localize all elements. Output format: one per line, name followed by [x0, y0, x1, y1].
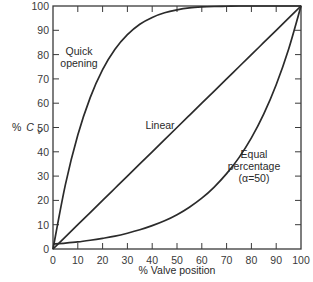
y-tick-label: 30 [37, 170, 49, 182]
x-tick-label: 10 [72, 254, 84, 266]
equal-percentage-label-line3: (α=50) [239, 172, 270, 184]
x-tick-label: 100 [292, 254, 310, 266]
equal-percentage-label-line2: percentage [228, 160, 281, 172]
x-tick-label: 30 [122, 254, 134, 266]
x-tick-label: 70 [221, 254, 233, 266]
curves [53, 6, 301, 249]
y-tick-label: 80 [37, 49, 49, 61]
y-tick-label: 20 [37, 194, 49, 206]
y-tick-label: 40 [37, 146, 49, 158]
linear-label: Linear [145, 119, 175, 131]
y-tick-label: 10 [37, 219, 49, 231]
y-tick-label: 70 [37, 73, 49, 85]
quick-opening-label-line2: opening [60, 57, 98, 69]
equal-percentage-label-line1: Equal [241, 148, 268, 160]
x-axis-label: % Valve position [139, 264, 216, 276]
y-tick-label: 60 [37, 97, 49, 109]
quick-opening-label-line1: Quick [66, 45, 94, 57]
x-tick-label: 90 [270, 254, 282, 266]
y-tick-label: 90 [37, 24, 49, 36]
x-tick-label: 20 [97, 254, 109, 266]
x-tick-label: 0 [50, 254, 56, 266]
x-tick-label: 80 [246, 254, 258, 266]
valve-characteristics-chart: 0102030405060708090100 01020304050607080… [0, 0, 313, 282]
y-tick-label: 0 [43, 243, 49, 255]
y-tick-label: 100 [31, 0, 49, 12]
linear-curve [53, 6, 301, 249]
